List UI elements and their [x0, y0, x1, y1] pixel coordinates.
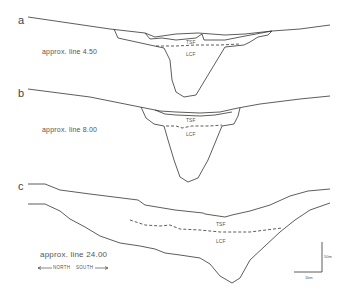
profile-b: [28, 89, 330, 182]
lcf-label-c: LCF: [216, 238, 225, 244]
north-label: NORTH: [53, 265, 70, 270]
profile-a: [28, 17, 330, 97]
unit-boundary-c: [130, 220, 282, 232]
scale-horizontal-label: 1km: [305, 275, 313, 280]
panel-label-b: b: [18, 87, 24, 99]
tsf-label-a: TSF: [186, 39, 195, 45]
scale-bar: [294, 242, 322, 272]
panel-label-c: c: [18, 180, 24, 192]
profile-c: [28, 184, 330, 283]
tsf-label-b: TSF: [186, 117, 195, 123]
unit-boundary-b: [166, 125, 222, 128]
lcf-label-b: LCF: [186, 131, 195, 137]
orientation-arrows: [38, 267, 108, 270]
surface-line-b: [28, 89, 330, 113]
scale-vertical-label: 50m: [324, 254, 332, 259]
line-label-c: approx. line 24.00: [40, 250, 107, 259]
surface-line-c: [28, 184, 330, 217]
lcf-label-a: LCF: [186, 51, 195, 57]
south-label: SOUTH: [76, 265, 93, 270]
channel-outline-c: [28, 203, 330, 283]
line-label-a: approx. line 4.50: [42, 48, 97, 55]
tsf-label-c: TSF: [216, 221, 225, 227]
line-label-b: approx. line 8.00: [42, 126, 97, 133]
unit-boundary-a: [156, 44, 240, 46]
panel-label-a: a: [18, 14, 24, 26]
surface-line-a: [28, 17, 330, 37]
